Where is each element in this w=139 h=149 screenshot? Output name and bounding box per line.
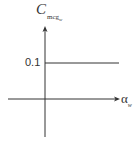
y-label-main: C: [36, 1, 46, 17]
x-label-main: α: [121, 91, 128, 106]
y-label-subscript: mcgw: [47, 13, 62, 21]
y-tick-label: 0.1: [25, 56, 40, 68]
x-axis-label: αw: [121, 92, 132, 108]
y-label-sub-w: w: [59, 17, 62, 22]
chart-canvas: [0, 0, 139, 149]
y-axis-label: Cmcgw: [36, 2, 62, 20]
x-label-subscript: w: [128, 102, 132, 108]
